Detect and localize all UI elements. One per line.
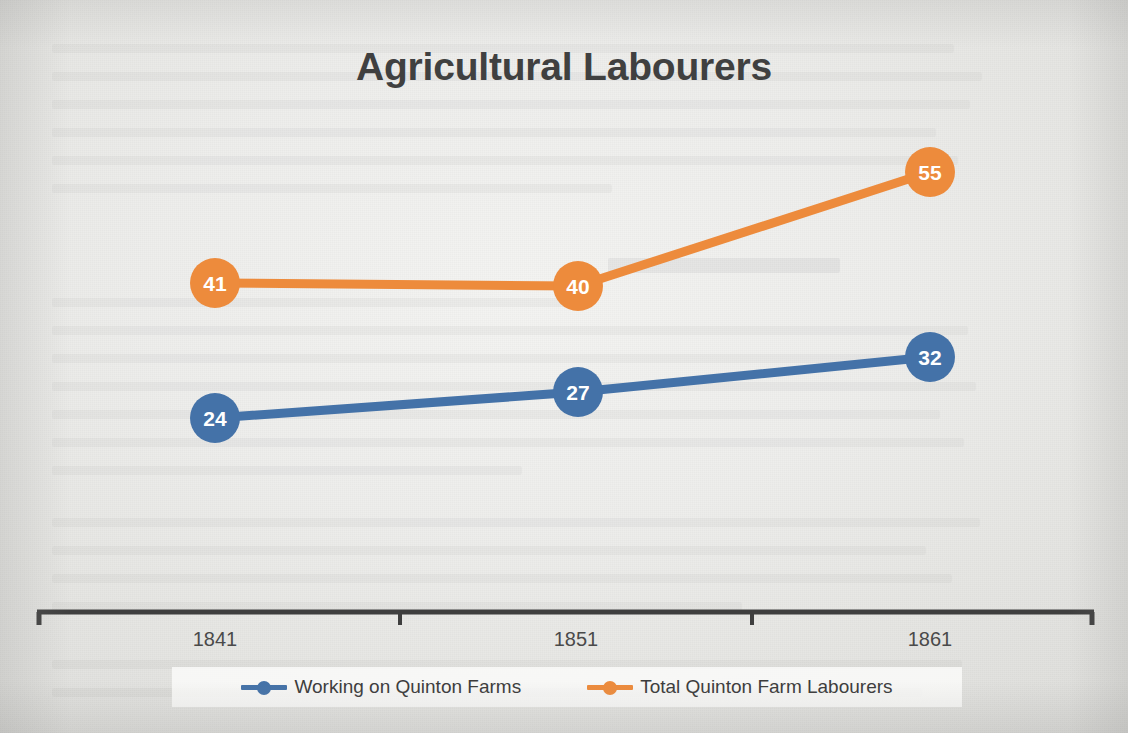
data-point-orange-1851[interactable] [553,261,603,311]
chart-legend: Working on Quinton Farms Total Quinton F… [172,667,962,707]
x-axis-label-1851: 1851 [516,628,636,651]
legend-line-marker-icon [587,679,633,695]
data-point-orange-1841[interactable] [190,258,240,308]
scanned-page: Agricultural Labourers [0,0,1128,733]
x-axis-label-1841: 1841 [155,628,275,651]
plot-canvas [0,0,1128,733]
legend-label: Total Quinton Farm Labourers [640,676,892,698]
legend-label: Working on Quinton Farms [294,676,521,698]
data-point-orange-1861[interactable] [905,147,955,197]
chart: Agricultural Labourers [0,0,1128,733]
x-axis-label-1861: 1861 [870,628,990,651]
legend-line-marker-icon [241,679,287,695]
data-point-blue-1851[interactable] [553,367,603,417]
legend-item-working-on-quinton-farms[interactable]: Working on Quinton Farms [241,676,521,698]
legend-item-total-quinton-farm-labourers[interactable]: Total Quinton Farm Labourers [587,676,892,698]
x-axis [37,612,1094,625]
data-point-blue-1861[interactable] [905,332,955,382]
data-point-blue-1841[interactable] [190,393,240,443]
